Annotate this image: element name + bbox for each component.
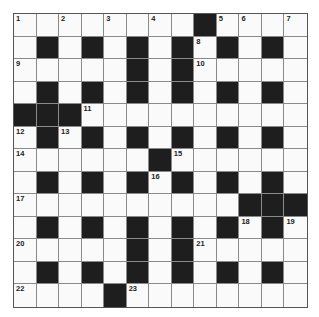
grid-cell[interactable] — [262, 104, 285, 127]
grid-cell[interactable] — [149, 217, 172, 240]
grid-cell[interactable] — [217, 59, 240, 82]
grid-cell[interactable] — [172, 104, 195, 127]
grid-cell[interactable]: 7 — [284, 14, 307, 37]
grid-cell[interactable] — [59, 82, 82, 105]
grid-cell[interactable] — [149, 127, 172, 150]
grid-cell[interactable] — [82, 59, 105, 82]
grid-cell[interactable] — [284, 262, 307, 285]
grid-cell[interactable] — [284, 284, 307, 307]
grid-cell[interactable]: 8 — [194, 37, 217, 60]
grid-cell[interactable]: 4 — [149, 14, 172, 37]
grid-cell[interactable]: 16 — [149, 172, 172, 195]
grid-cell[interactable] — [149, 194, 172, 217]
grid-cell[interactable]: 19 — [284, 217, 307, 240]
grid-cell[interactable] — [194, 217, 217, 240]
grid-cell[interactable] — [104, 59, 127, 82]
grid-cell[interactable] — [284, 59, 307, 82]
grid-cell[interactable] — [37, 239, 60, 262]
grid-cell[interactable]: 12 — [14, 127, 37, 150]
grid-cell[interactable]: 23 — [127, 284, 150, 307]
grid-cell[interactable] — [59, 149, 82, 172]
grid-cell[interactable] — [239, 82, 262, 105]
grid-cell[interactable] — [37, 194, 60, 217]
grid-cell[interactable] — [262, 59, 285, 82]
grid-cell[interactable]: 22 — [14, 284, 37, 307]
grid-cell[interactable]: 3 — [104, 14, 127, 37]
grid-cell[interactable] — [104, 104, 127, 127]
grid-cell[interactable] — [104, 194, 127, 217]
grid-cell[interactable] — [59, 37, 82, 60]
grid-cell[interactable] — [127, 194, 150, 217]
grid-cell[interactable] — [194, 194, 217, 217]
grid-cell[interactable] — [239, 284, 262, 307]
grid-cell[interactable] — [14, 262, 37, 285]
grid-cell[interactable] — [172, 14, 195, 37]
grid-cell[interactable]: 15 — [172, 149, 195, 172]
grid-cell[interactable] — [217, 149, 240, 172]
grid-cell[interactable] — [284, 37, 307, 60]
grid-cell[interactable] — [284, 239, 307, 262]
grid-cell[interactable] — [149, 37, 172, 60]
grid-cell[interactable] — [37, 59, 60, 82]
grid-cell[interactable] — [104, 127, 127, 150]
grid-cell[interactable] — [239, 104, 262, 127]
grid-cell[interactable] — [82, 194, 105, 217]
grid-cell[interactable] — [149, 262, 172, 285]
grid-cell[interactable] — [262, 239, 285, 262]
grid-cell[interactable] — [14, 172, 37, 195]
grid-cell[interactable] — [284, 172, 307, 195]
grid-cell[interactable] — [217, 104, 240, 127]
grid-cell[interactable] — [239, 262, 262, 285]
grid-cell[interactable] — [37, 149, 60, 172]
grid-cell[interactable]: 10 — [194, 59, 217, 82]
grid-cell[interactable] — [239, 239, 262, 262]
grid-cell[interactable] — [239, 59, 262, 82]
grid-cell[interactable] — [284, 104, 307, 127]
grid-cell[interactable] — [172, 284, 195, 307]
grid-cell[interactable] — [194, 284, 217, 307]
grid-cell[interactable] — [59, 239, 82, 262]
grid-cell[interactable] — [82, 284, 105, 307]
grid-cell[interactable] — [239, 172, 262, 195]
grid-cell[interactable] — [284, 127, 307, 150]
grid-cell[interactable]: 11 — [82, 104, 105, 127]
grid-cell[interactable] — [284, 149, 307, 172]
grid-cell[interactable]: 9 — [14, 59, 37, 82]
grid-cell[interactable] — [59, 284, 82, 307]
grid-cell[interactable] — [104, 172, 127, 195]
grid-cell[interactable] — [217, 194, 240, 217]
grid-cell[interactable] — [239, 127, 262, 150]
grid-cell[interactable] — [82, 14, 105, 37]
grid-cell[interactable] — [284, 82, 307, 105]
grid-cell[interactable] — [149, 239, 172, 262]
grid-cell[interactable] — [104, 239, 127, 262]
grid-cell[interactable] — [59, 217, 82, 240]
grid-cell[interactable] — [217, 284, 240, 307]
grid-cell[interactable] — [59, 172, 82, 195]
grid-cell[interactable] — [239, 149, 262, 172]
grid-cell[interactable] — [104, 82, 127, 105]
grid-cell[interactable] — [149, 284, 172, 307]
grid-cell[interactable] — [104, 262, 127, 285]
grid-cell[interactable] — [262, 14, 285, 37]
grid-cell[interactable] — [14, 217, 37, 240]
grid-cell[interactable] — [59, 194, 82, 217]
grid-cell[interactable] — [14, 82, 37, 105]
grid-cell[interactable] — [194, 262, 217, 285]
grid-cell[interactable]: 20 — [14, 239, 37, 262]
grid-cell[interactable] — [262, 284, 285, 307]
grid-cell[interactable]: 5 — [217, 14, 240, 37]
grid-cell[interactable] — [217, 239, 240, 262]
grid-cell[interactable] — [59, 59, 82, 82]
grid-cell[interactable] — [82, 149, 105, 172]
grid-cell[interactable] — [37, 284, 60, 307]
grid-cell[interactable] — [172, 194, 195, 217]
grid-cell[interactable]: 2 — [59, 14, 82, 37]
grid-cell[interactable] — [194, 172, 217, 195]
grid-cell[interactable]: 21 — [194, 239, 217, 262]
grid-cell[interactable] — [194, 149, 217, 172]
grid-cell[interactable]: 14 — [14, 149, 37, 172]
grid-cell[interactable] — [194, 104, 217, 127]
grid-cell[interactable]: 6 — [239, 14, 262, 37]
grid-cell[interactable]: 17 — [14, 194, 37, 217]
